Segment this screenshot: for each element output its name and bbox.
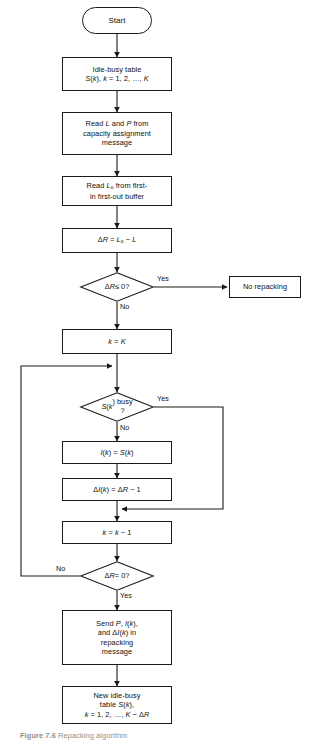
- node-delta-r-assign: ΔR = Lo − L: [62, 228, 172, 253]
- node-read-lo-label: Read Lo from first- in first-out buffer: [85, 181, 150, 201]
- node-decision-sk-busy-label: S(k) busy ?: [80, 392, 154, 422]
- figure-caption-number: Figure 7.6: [20, 731, 56, 740]
- node-read-lo: Read Lo from first- in first-out buffer: [62, 176, 172, 206]
- edge-label-no-sk-busy: No: [120, 424, 129, 432]
- node-k-equals-k: k = K: [62, 329, 172, 354]
- edge-label-no-delta-r-le-0: No: [120, 303, 129, 311]
- figure-caption: Figure 7.6 Repacking algorithm: [20, 731, 127, 740]
- node-decision-sk-busy: S(k) busy ?: [80, 392, 154, 422]
- node-idle-busy-table-label: Idle-busy table S(k), k = 1, 2, …, K: [83, 65, 151, 84]
- node-no-repacking-label: No repacking: [241, 282, 289, 291]
- node-decision-delta-r-eq-0-label: ΔR = 0?: [80, 561, 154, 591]
- node-send-repacking: Send P, I(k), and ΔI(k) in repacking mes…: [62, 610, 172, 665]
- node-new-idle-busy-label: New idle-busy table S(k), k = 1, 2, …, K…: [83, 691, 152, 719]
- node-idle-busy-table: Idle-busy table S(k), k = 1, 2, …, K: [62, 57, 172, 91]
- edge-label-yes-delta-r-eq-0: Yes: [120, 592, 132, 600]
- node-send-repacking-label: Send P, I(k), and ΔI(k) in repacking mes…: [94, 619, 140, 657]
- node-delta-r-assign-label: ΔR = Lo − L: [96, 235, 139, 245]
- node-start: Start: [82, 7, 152, 34]
- node-start-label: Start: [106, 16, 127, 25]
- node-new-idle-busy: New idle-busy table S(k), k = 1, 2, …, K…: [62, 686, 172, 724]
- edge-label-yes-sk-busy: Yes: [157, 395, 169, 403]
- node-read-l-p-label: Read L and P from capacity assignment me…: [81, 119, 153, 147]
- node-decision-delta-r-le-0: ΔR ≤ 0?: [80, 272, 154, 302]
- node-k-decrement-label: k = k − 1: [101, 528, 134, 537]
- flowchart-figure: Start Idle-busy table S(k), k = 1, 2, …,…: [0, 0, 311, 744]
- node-read-l-p: Read L and P from capacity assignment me…: [62, 112, 172, 155]
- edge-label-yes-delta-r-le-0: Yes: [157, 275, 169, 283]
- node-k-equals-k-label: k = K: [106, 337, 127, 346]
- node-ik-assign-label: I(k) = S(k): [98, 448, 135, 457]
- node-no-repacking: No repacking: [229, 276, 301, 298]
- node-delta-ik-assign: ΔI(k) = ΔR − 1: [62, 478, 172, 501]
- node-delta-ik-assign-label: ΔI(k) = ΔR − 1: [91, 485, 143, 494]
- edge-label-no-delta-r-eq-0: No: [56, 565, 65, 573]
- node-decision-delta-r-le-0-label: ΔR ≤ 0?: [80, 272, 154, 302]
- node-ik-assign: I(k) = S(k): [62, 441, 172, 464]
- node-decision-delta-r-eq-0: ΔR = 0?: [80, 561, 154, 591]
- node-k-decrement: k = k − 1: [62, 521, 172, 544]
- figure-caption-text: Repacking algorithm: [58, 731, 127, 740]
